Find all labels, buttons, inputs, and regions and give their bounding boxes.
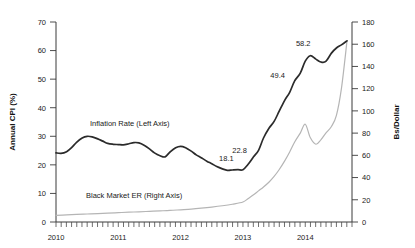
- right-axis-tick-label: 180: [362, 18, 375, 27]
- right-axis-title: Bs/Dollar: [392, 104, 401, 139]
- series-label-black-market-er: Black Market ER (Right Axis): [86, 191, 183, 200]
- x-axis-tick-label: 2013: [235, 233, 252, 242]
- chart-background: [0, 0, 415, 248]
- right-axis-tick-label: 80: [362, 129, 370, 138]
- right-axis-tick-label: 0: [362, 218, 366, 227]
- series-label-inflation-rate: Inflation Rate (Left Axis): [90, 119, 170, 128]
- right-axis-tick-label: 120: [362, 84, 375, 93]
- left-axis-tick-label: 0: [42, 218, 46, 227]
- right-axis-tick-label: 40: [362, 173, 370, 182]
- x-axis-tick-label: 2012: [172, 233, 189, 242]
- left-axis-tick-label: 20: [38, 161, 46, 170]
- right-axis-tick-label: 100: [362, 107, 375, 116]
- x-axis-tick-label: 2014: [297, 233, 314, 242]
- chart-container: 010203040506070 020406080100120140160180…: [0, 0, 415, 248]
- data-point-label: 49.4: [270, 71, 285, 80]
- x-axis-tick-label: 2011: [110, 233, 126, 242]
- data-point-label: 22.8: [232, 146, 247, 155]
- left-axis-tick-label: 60: [38, 46, 46, 55]
- x-axis-tick-label: 2010: [48, 233, 65, 242]
- line-chart-figure: 010203040506070 020406080100120140160180…: [0, 0, 415, 248]
- data-point-label: 18.1: [219, 154, 234, 163]
- left-axis-tick-label: 50: [38, 75, 46, 84]
- left-axis-title: Annual CPI (%): [8, 93, 17, 151]
- right-axis-tick-label: 20: [362, 196, 370, 205]
- data-point-label: 58.2: [296, 39, 311, 48]
- left-axis-tick-label: 10: [38, 189, 46, 198]
- right-axis-tick-label: 140: [362, 62, 375, 71]
- left-axis-tick-label: 40: [38, 104, 46, 113]
- left-axis-tick-label: 70: [38, 18, 46, 27]
- left-axis-tick-label: 30: [38, 132, 46, 141]
- right-axis-tick-label: 160: [362, 40, 375, 49]
- right-axis-tick-label: 60: [362, 151, 370, 160]
